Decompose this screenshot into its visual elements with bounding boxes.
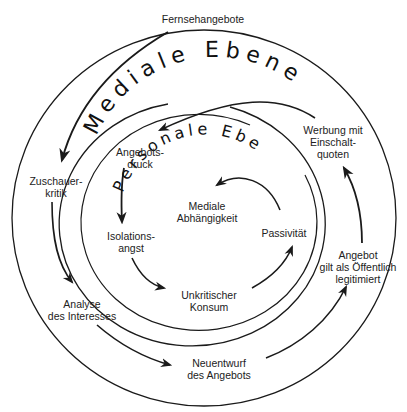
node-line: Werbung mit — [303, 124, 362, 136]
node-line: gilt als Öffentlich — [320, 261, 397, 273]
node-line: Konsum — [181, 301, 236, 313]
arrow-isolation-to-konsum — [132, 258, 164, 288]
node-zuschauerkritik: Zuschauer- kritik — [29, 175, 82, 199]
node-angebotsdruck: Angebots- druck — [116, 146, 164, 170]
node-passivitaet: Passivität — [262, 227, 307, 239]
label-fernsehangebote: Fernsehangebote — [162, 13, 244, 25]
node-line: Passivität — [262, 227, 307, 239]
node-konsum: Unkritischer Konsum — [181, 289, 236, 313]
node-line: legitimiert — [320, 273, 397, 285]
node-line: kritik — [29, 187, 82, 199]
arrow-konsum-to-passivitaet — [252, 247, 292, 288]
node-line: Isolations- — [107, 230, 155, 242]
node-analyse: Analyse des Interesses — [48, 298, 116, 322]
arrow-neuentwurf-to-legitimiert — [266, 287, 346, 358]
node-line: quoten — [303, 148, 362, 160]
node-line: des Interesses — [48, 310, 116, 322]
node-isolationsangst: Isolations- angst — [107, 230, 155, 254]
node-line: Angebots- — [116, 146, 164, 158]
node-line: Unkritischer — [181, 289, 236, 301]
node-line: Zuschauer- — [29, 175, 82, 187]
arrow-analyse-to-neuentwurf — [97, 325, 170, 365]
node-line: Abhängigkeit — [177, 212, 238, 224]
arrow-legitimiert-to-werbung — [344, 168, 362, 243]
node-line: Analyse — [48, 298, 116, 310]
node-line: druck — [116, 158, 164, 170]
node-line: Mediale — [177, 200, 238, 212]
node-line: Neuentwurf — [187, 357, 251, 369]
node-line: Angebot — [320, 249, 397, 261]
node-abhaengigkeit: Mediale Abhängigkeit — [177, 200, 238, 224]
node-neuentwurf: Neuentwurf des Angebots — [187, 357, 251, 381]
node-werbung: Werbung mit Einschalt- quoten — [303, 124, 362, 160]
node-line: angst — [107, 242, 155, 254]
node-line: des Angebots — [187, 369, 251, 381]
node-legitimiert: Angebot gilt als Öffentlich legitimiert — [320, 249, 397, 285]
node-line: Einschalt- — [303, 136, 362, 148]
